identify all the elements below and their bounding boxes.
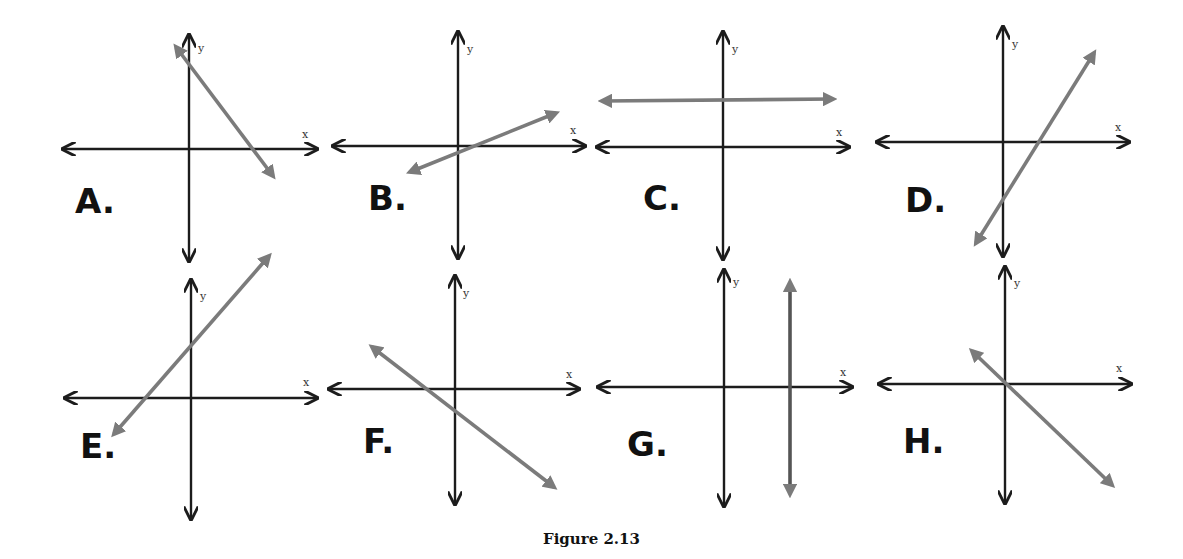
panel-label-a: A. [75,181,115,221]
panel-label-d: D. [905,180,946,220]
panel-b: y x B. [334,33,584,257]
graphed-line [372,347,554,487]
y-axis-label: y [731,43,739,56]
x-axis-label: x [303,376,310,389]
y-axis-label: y [466,43,474,56]
x-axis-label: x [1116,362,1123,375]
y-axis-label: y [1011,38,1019,51]
x-axis-label: x [840,366,847,379]
panel-c: y x C. [598,33,848,258]
x-axis-label: x [302,128,309,141]
panel-f: y x F. [330,277,578,503]
panel-label-f: F. [363,421,394,461]
x-axis-label: x [836,126,843,139]
panel-label-e: E. [80,426,116,466]
figure-2-13: y x A. y x B. y x C. y x D. y x E. [0,0,1183,559]
y-axis-label: y [199,290,207,303]
graphed-line [976,53,1094,243]
graphed-line [176,47,273,176]
panel-a: y x A. [64,36,316,260]
panel-g: y x G. [599,271,851,505]
x-axis-label: x [566,368,573,381]
panel-h: y x H. [880,268,1130,502]
panel-d: y x D. [878,28,1128,255]
y-axis-label: y [1013,277,1021,290]
panel-label-c: C. [643,178,681,218]
graphed-line [972,351,1112,485]
x-axis-label: x [570,124,577,137]
x-axis-label: x [1115,121,1122,134]
panel-label-b: B. [368,178,407,218]
y-axis-label: y [462,287,470,300]
graphed-line [410,113,556,172]
graphed-line [602,99,833,101]
figure-caption: Figure 2.13 [0,530,1183,548]
y-axis-label: y [197,42,205,55]
panel-label-g: G. [627,424,668,464]
panel-e: y x E. [66,256,316,518]
panel-label-h: H. [903,421,944,461]
y-axis-label: y [732,276,740,289]
